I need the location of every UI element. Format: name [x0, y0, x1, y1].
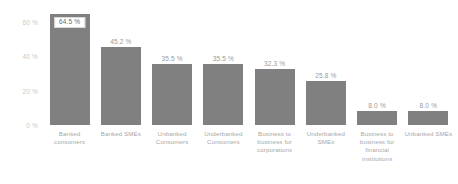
bar-value-label: 35.5 %	[161, 55, 182, 62]
x-axis-category-label: Business to business for financial insti…	[352, 130, 403, 163]
bar-value-label: 32.3 %	[264, 60, 285, 67]
x-axis-category-label: Unbanked SMEs	[403, 130, 454, 138]
bar-slot[interactable]: 32.3 %	[255, 8, 295, 125]
bar-value-label: 25.8 %	[315, 72, 336, 79]
bar-slot[interactable]: 8.0 %	[408, 8, 448, 125]
y-axis-tick-label: 60 %	[22, 18, 38, 25]
bar[interactable]: 25.8 %	[306, 81, 346, 125]
bar-value-label: 45.2 %	[110, 38, 131, 45]
bar-chart: 0 %20 %40 %60 % 64.5 %45.2 %35.5 %35.5 %…	[0, 0, 458, 184]
x-axis-category-label: Unbanked Consumers	[147, 130, 198, 146]
bar-slot[interactable]: 45.2 %	[101, 8, 141, 125]
bar-value-label: 35.5 %	[213, 55, 234, 62]
bar-slot[interactable]: 35.5 %	[203, 8, 243, 125]
y-axis-tick-label: 40 %	[22, 53, 38, 60]
bar[interactable]: 64.5 %	[50, 14, 90, 125]
bar-value-label: 8.0 %	[368, 102, 386, 109]
bar[interactable]: 8.0 %	[357, 111, 397, 125]
bar[interactable]: 8.0 %	[408, 111, 448, 125]
plot-area: 64.5 %45.2 %35.5 %35.5 %32.3 %25.8 %8.0 …	[44, 8, 454, 125]
bar-value-label: 8.0 %	[420, 102, 438, 109]
bar[interactable]: 32.3 %	[255, 69, 295, 125]
bar-slot[interactable]: 35.5 %	[152, 8, 192, 125]
bar-slot[interactable]: 8.0 %	[357, 8, 397, 125]
bar-slot[interactable]: 64.5 %	[50, 8, 90, 125]
bar-value-label-highlighted: 64.5 %	[54, 17, 85, 28]
y-axis-tick-label: 0 %	[26, 122, 38, 129]
x-axis-category-label: Underbanked Consumers	[198, 130, 249, 146]
bar[interactable]: 35.5 %	[152, 64, 192, 125]
x-axis-category-label: Banked consumers	[44, 130, 95, 146]
bar[interactable]: 35.5 %	[203, 64, 243, 125]
x-axis-category-label: Business to business for corporations	[249, 130, 300, 155]
x-axis-category-label: Banked SMEs	[95, 130, 146, 138]
y-axis: 0 %20 %40 %60 %	[0, 0, 44, 133]
y-axis-tick-label: 20 %	[22, 87, 38, 94]
x-axis-category-label: Underbanked SMEs	[300, 130, 351, 146]
bar[interactable]: 45.2 %	[101, 47, 141, 125]
bar-slot[interactable]: 25.8 %	[306, 8, 346, 125]
